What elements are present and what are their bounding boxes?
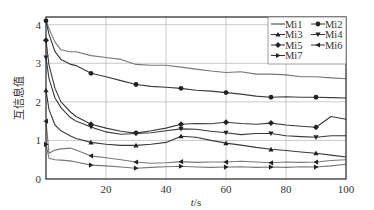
legend-label: Mi4 — [325, 29, 343, 40]
triangle-left-marker-icon — [88, 153, 93, 158]
y-tick-label: 2 — [36, 96, 42, 108]
triangle-left-marker-icon — [133, 159, 138, 164]
circle-marker-icon — [179, 86, 184, 91]
legend-label: Mi5 — [285, 40, 303, 51]
y-tick-label: 1 — [36, 134, 42, 146]
circle-marker-icon — [224, 90, 229, 95]
mutual-information-chart: 2040608010001234 互信息值 t/s Mi1Mi2Mi3Mi4Mi… — [0, 0, 374, 210]
circle-marker-icon — [314, 95, 319, 100]
y-tick-label: 0 — [36, 173, 42, 185]
legend-label: Mi3 — [285, 29, 303, 40]
triangle-right-marker-icon — [134, 166, 139, 171]
legend-label: Mi7 — [285, 50, 303, 61]
series-mi3 — [43, 88, 346, 157]
circle-marker-icon — [89, 71, 94, 76]
triangle-right-marker-icon — [179, 164, 184, 169]
triangle-right-marker-icon — [89, 163, 94, 168]
x-tick-label: 80 — [281, 183, 293, 195]
diamond-marker-icon — [178, 121, 184, 127]
legend: Mi1Mi2Mi3Mi4Mi5Mi6Mi7 — [268, 17, 346, 64]
legend-label: Mi2 — [325, 19, 343, 30]
x-tick-label: 60 — [221, 183, 233, 195]
triangle-left-marker-icon — [178, 159, 183, 164]
y-tick-label: 4 — [36, 19, 42, 31]
x-tick-label: 40 — [161, 183, 173, 195]
y-axis-label: 互信息值 — [12, 76, 26, 120]
triangle-left-marker-icon — [313, 159, 318, 164]
x-tick-label: 100 — [338, 183, 355, 195]
diamond-marker-icon — [133, 130, 139, 136]
diamond-marker-icon — [223, 119, 229, 125]
triangle-right-marker-icon — [314, 164, 319, 169]
x-axis-label: t/s — [191, 196, 201, 208]
circle-marker-icon — [316, 22, 321, 27]
legend-label: Mi6 — [325, 40, 343, 51]
circle-marker-icon — [134, 82, 139, 87]
y-tick-label: 3 — [36, 57, 42, 69]
circle-marker-icon — [269, 95, 274, 100]
legend-label: Mi1 — [285, 19, 303, 30]
diamond-marker-icon — [268, 120, 274, 126]
x-tick-label: 20 — [101, 183, 113, 195]
